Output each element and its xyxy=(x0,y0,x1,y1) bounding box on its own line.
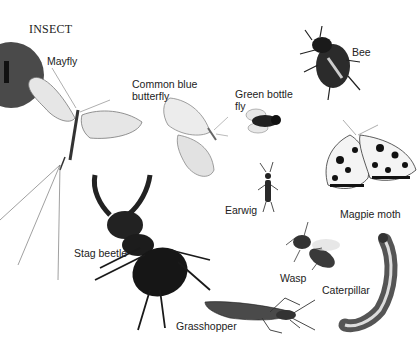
label-magpie-moth: Magpie moth xyxy=(340,208,401,220)
label-mayfly: Mayfly xyxy=(47,55,77,67)
label-green-bottle-fly: Green bottle fly xyxy=(235,88,293,112)
bee-illustration xyxy=(300,26,360,100)
label-earwig: Earwig xyxy=(225,204,257,216)
label-grasshopper: Grasshopper xyxy=(176,320,237,332)
fly-illustration xyxy=(246,109,281,133)
caterpillar-illustration xyxy=(345,233,391,326)
magpie-moth-illustration xyxy=(326,120,416,189)
butterfly-illustration xyxy=(164,98,228,176)
label-stag-beetle: Stag beetle xyxy=(74,247,127,259)
label-bee: Bee xyxy=(352,46,371,58)
earwig-illustration xyxy=(258,162,278,212)
wasp-illustration xyxy=(286,222,340,272)
label-wasp: Wasp xyxy=(280,272,306,284)
label-common-blue-butterfly: Common blue butterfly xyxy=(132,78,197,102)
label-caterpillar: Caterpillar xyxy=(322,284,370,296)
